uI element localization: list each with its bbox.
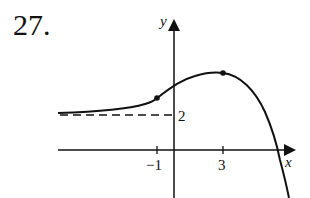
tick-label-2: 2 [178,108,186,124]
tick-label-neg1: −1 [146,157,162,173]
point-max-x-3 [220,70,226,76]
x-axis-label: x [284,154,292,170]
tick-label-3: 3 [218,157,226,173]
function-graph: y x −1 3 2 [0,0,310,198]
y-axis-label: y [158,13,167,29]
point-x-neg1 [154,95,160,101]
